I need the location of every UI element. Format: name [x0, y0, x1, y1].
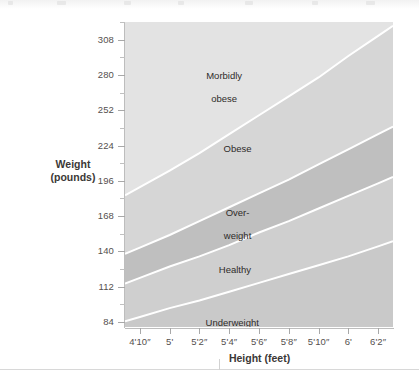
y-axis-minor-tick-98 — [120, 304, 125, 305]
y-axis-tick-168 — [118, 216, 125, 217]
y-axis-minor-tick-154 — [120, 234, 125, 235]
x-axis-tick-3 — [229, 328, 230, 334]
y-axis-tick-label-wrap: 112 — [78, 281, 114, 293]
y-axis-minor-tick-238 — [120, 128, 125, 129]
x-axis-tick-8 — [378, 328, 379, 334]
y-axis-tick-label-252: 252 — [80, 104, 114, 115]
y-axis-minor-tick-322 — [120, 22, 125, 23]
x-axis-tick-6 — [319, 328, 320, 334]
y-axis-tick-label-wrap: 224 — [78, 140, 114, 152]
y-axis-minor-tick-266 — [120, 93, 125, 94]
x-axis-tick-4 — [259, 328, 260, 334]
y-axis-tick-label-wrap: 140 — [78, 245, 114, 257]
x-axis-tick-label-8: 6'2″ — [356, 336, 400, 347]
y-axis-tick-84 — [118, 322, 125, 323]
y-axis-minor-tick-126 — [120, 269, 125, 270]
chart-plot-area: Morbidly obese Obese Over- weight Health… — [125, 22, 393, 327]
bmi-bands-svg — [125, 22, 393, 327]
y-axis-tick-label-wrap: 308 — [78, 34, 114, 46]
x-axis-tick-5 — [289, 328, 290, 334]
y-axis-tick-label-280: 280 — [80, 69, 114, 80]
y-axis-tick-label-168: 168 — [80, 210, 114, 221]
y-axis-tick-196 — [118, 181, 125, 182]
y-axis-tick-252 — [118, 110, 125, 111]
y-axis-tick-112 — [118, 287, 125, 288]
x-axis-tick-0 — [140, 328, 141, 334]
y-axis-tick-label-wrap: 252 — [78, 104, 114, 116]
y-axis-tick-140 — [118, 251, 125, 252]
y-axis-tick-label-140: 140 — [80, 245, 114, 256]
y-axis-tick-label-wrap: 168 — [78, 210, 114, 222]
page-bottom-divider — [0, 369, 419, 370]
y-axis-tick-280 — [118, 75, 125, 76]
x-axis-tick-7 — [348, 328, 349, 334]
y-axis-tick-308 — [118, 40, 125, 41]
x-axis-tick-1 — [170, 328, 171, 334]
bmi-chart-figure: Morbidly obese Obese Over- weight Health… — [0, 0, 419, 369]
y-axis-tick-label-224: 224 — [80, 140, 114, 151]
y-axis-tick-label-wrap: 280 — [78, 69, 114, 81]
y-axis-minor-tick-182 — [120, 198, 125, 199]
y-axis-tick-label-308: 308 — [80, 34, 114, 45]
y-axis-title-text-line1: Weight — [56, 158, 91, 170]
y-axis-line — [124, 22, 125, 328]
y-axis-tick-label-wrap: 84 — [78, 316, 114, 328]
y-axis-tick-label-84: 84 — [80, 316, 114, 327]
page-bottom-tick-mark — [219, 359, 220, 370]
y-axis-tick-224 — [118, 146, 125, 147]
x-axis-tick-2 — [199, 328, 200, 334]
x-axis-title: Height (feet) — [125, 352, 394, 364]
y-axis-title-text-line2: (pounds) — [51, 171, 96, 183]
y-axis-minor-tick-294 — [120, 57, 125, 58]
y-axis-minor-tick-210 — [120, 163, 125, 164]
y-axis-tick-label-112: 112 — [80, 281, 114, 292]
y-axis-title: Weight (pounds) — [36, 158, 110, 184]
